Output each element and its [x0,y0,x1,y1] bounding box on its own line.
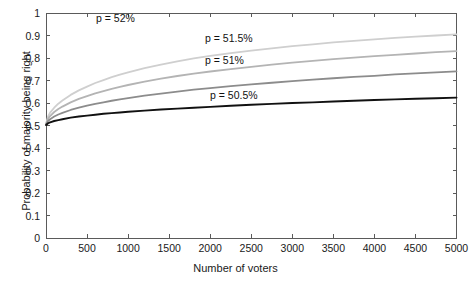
axes [46,13,457,238]
x-tick-label: 3500 [322,242,345,254]
y-tick-label: 1 [0,7,40,19]
curve-annotation: p = 52% [96,12,135,24]
x-tick-label: 1500 [157,242,180,254]
y-tick-label: 0.1 [0,210,40,222]
x-tick-label: 4000 [363,242,386,254]
x-tick-label: 0 [43,242,49,254]
x-tick-label: 2000 [199,242,222,254]
y-tick-label: 0.9 [0,30,40,42]
y-axis-title: Probability of majority being right [20,51,32,211]
x-tick-label: 1000 [116,242,139,254]
x-tick-label: 3000 [281,242,304,254]
series-curves [46,34,456,125]
x-tick-label: 5000 [445,242,468,254]
curve-annotation: p = 51.5% [205,32,253,44]
y-tick-label: 0 [0,232,40,244]
series-line-0-52 [46,34,456,123]
x-tick-label: 4500 [404,242,427,254]
x-axis-title: Number of voters [0,262,471,274]
x-tick-label: 500 [78,242,96,254]
curve-annotation: p = 50.5% [210,89,258,101]
chart-figure: 00.10.20.30.40.50.60.70.80.91 0500100015… [0,0,471,281]
curve-annotation: p = 51% [205,54,244,66]
x-tick-label: 2500 [240,242,263,254]
